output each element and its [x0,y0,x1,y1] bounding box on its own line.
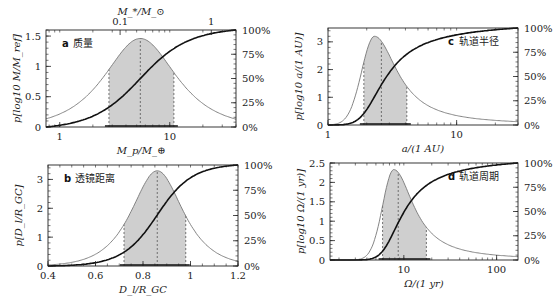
x-tick-label: 10 [450,129,463,140]
right-percent-label: 100% [244,160,273,171]
panel-c: 01230%25%50%75%100%110a/(1 AU)p[log10 a/… [293,23,553,155]
x-axis-title: Ω/(1 yr) [403,278,444,289]
y-tick-label: 0.5 [309,235,325,246]
x-tick-label: 0.4 [40,270,56,281]
panel-a: 00.511.50%25%50%75%100%110M_p/M_⊕p[log10… [11,6,271,157]
right-percent-label: 0% [244,261,260,272]
right-percent-label: 100% [242,25,271,36]
top-axis-title: M_*/M_⊙ [116,6,164,18]
y-tick-label: 2 [317,64,323,75]
panel-letter: b [64,173,71,184]
y-tick-label: 0.5 [25,91,41,102]
right-percent-label: 0% [524,120,540,131]
y-tick-label: 1 [317,92,323,103]
right-percent-label: 75% [524,47,546,58]
y-tick-label: 3 [317,36,323,47]
right-percent-label: 25% [244,235,266,246]
panel-letter: d [448,171,455,182]
x-tick-label: 1.2 [230,270,246,281]
y-tick-label: 1 [319,216,325,227]
panel-d: 00.511.522.50%25%50%75%100%10100Ω/(1 yr)… [295,158,553,290]
right-percent-label: 0% [242,122,258,133]
x-tick-label: 1 [187,270,193,281]
right-percent-label: 25% [524,95,546,106]
y-tick-label: 0 [317,120,323,131]
panel-title: 轨道周期 [459,170,499,182]
x-axis-title: M_p/M_⊕ [116,145,166,157]
x-axis-title: a/(1 AU) [402,143,444,154]
credible-interval-shade [109,39,174,128]
right-percent-label: 50% [524,206,546,217]
y-tick-label: 1.5 [25,31,41,42]
y-tick-label: 0 [35,122,41,133]
x-tick-label: 10 [397,264,410,275]
right-percent-label: 0% [524,255,540,266]
panel-letter: a [62,38,69,49]
right-percent-label: 25% [242,97,264,108]
x-axis-title: D_l/R_GC [118,284,167,296]
panel-b: 01230%25%50%75%100%0.40.60.811.2D_l/R_GC… [13,160,273,297]
panel-title: 轨道半径 [459,35,499,47]
right-percent-label: 25% [524,230,546,241]
right-percent-label: 50% [244,210,266,221]
panel-title: 透镜距离 [75,172,115,184]
y-axis-title: p[log10 Ω/(1 yr)] [295,169,306,254]
y-tick-label: 1 [37,232,43,243]
figure-canvas: 00.511.50%25%50%75%100%110M_p/M_⊕p[log10… [0,0,557,302]
x-tick-label: 0.8 [135,270,151,281]
x-tick-label: 0.6 [88,270,104,281]
right-percent-label: 75% [242,49,264,60]
panel-title: 质量 [73,38,93,49]
right-percent-label: 75% [524,182,546,193]
right-percent-label: 75% [244,185,266,196]
y-tick-label: 3 [37,174,43,185]
density-curve [328,36,518,125]
right-percent-label: 100% [524,158,553,169]
right-percent-label: 100% [524,23,553,34]
top-x-tick-label: 0.1 [112,16,128,27]
y-axis-title: p[log10 a/(1 AU)] [293,32,304,120]
y-tick-label: 1 [35,61,41,72]
y-axis-title: p[log10 M/M_ref] [11,34,23,123]
y-tick-label: 2 [319,177,325,188]
x-tick-label: 1 [57,131,63,142]
x-tick-label: 10 [163,131,176,142]
y-tick-label: 0 [319,255,325,266]
x-tick-label: 1 [325,129,331,140]
y-tick-label: 1.5 [309,196,325,207]
y-tick-label: 2 [37,203,43,214]
right-percent-label: 50% [242,73,264,84]
credible-interval-shade [364,36,407,125]
x-tick-label: 100 [487,264,506,275]
y-tick-label: 2.5 [309,158,325,169]
y-axis-title: p[D_l/R_GC] [13,184,25,246]
panel-letter: c [448,36,454,47]
top-x-tick-label: 1 [208,16,214,27]
right-percent-label: 50% [524,71,546,82]
